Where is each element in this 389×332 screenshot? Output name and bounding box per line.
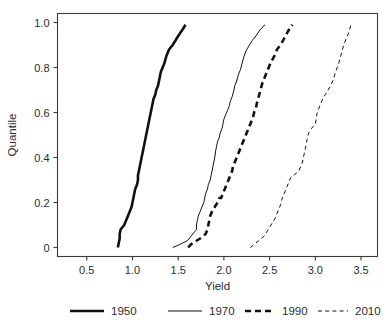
x-axis-title: Yield: [205, 280, 230, 292]
x-tick-label: 2.5: [262, 264, 277, 276]
legend-label-2010: 2010: [355, 305, 381, 317]
series-line-1970: [173, 25, 265, 248]
x-tick-label: 3.5: [353, 264, 368, 276]
y-tick-label: 0.4: [34, 152, 49, 164]
quantile-yield-chart: 0.51.01.52.02.53.03.500.20.40.60.81.0Yie…: [0, 0, 389, 332]
legend-label-1950: 1950: [111, 305, 137, 317]
series-line-2010: [250, 25, 351, 248]
legend-label-1990: 1990: [282, 305, 308, 317]
x-tick-label: 1.0: [125, 264, 140, 276]
x-tick-label: 1.5: [171, 264, 186, 276]
x-tick-label: 2.0: [216, 264, 231, 276]
y-tick-label: 0.6: [34, 107, 49, 119]
y-tick-label: 0: [43, 242, 49, 254]
y-tick-label: 1.0: [34, 17, 49, 29]
x-tick-label: 3.0: [308, 264, 323, 276]
x-tick-label: 0.5: [79, 264, 94, 276]
plot-frame: [58, 14, 378, 257]
series-line-1950: [118, 25, 186, 248]
y-tick-label: 0.2: [34, 197, 49, 209]
y-tick-label: 0.8: [34, 62, 49, 74]
legend-label-1970: 1970: [209, 305, 235, 317]
quantile-yield-figure: 0.51.01.52.02.53.03.500.20.40.60.81.0Yie…: [0, 0, 389, 332]
y-axis-title: Quantile: [6, 114, 18, 157]
